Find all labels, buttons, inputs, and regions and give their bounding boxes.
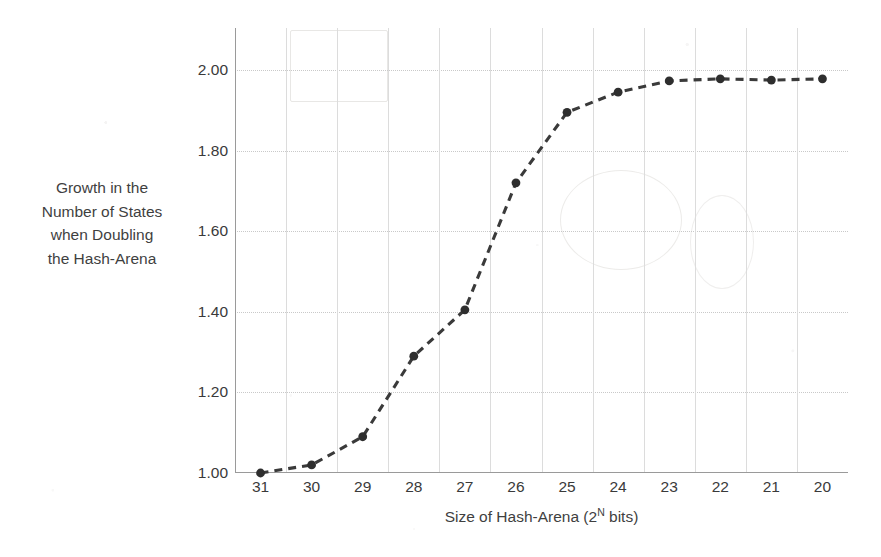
x-axis-tick-label: 21: [751, 478, 791, 496]
data-point-marker: [409, 352, 418, 361]
x-axis-title-superscript: N: [597, 506, 605, 518]
data-point-marker: [614, 88, 623, 97]
x-axis-tick-label: 31: [241, 478, 281, 496]
x-axis-tick-label: 28: [394, 478, 434, 496]
x-axis-tick-labels: 313029282726252423222120: [235, 478, 848, 502]
chart-plot-area: [235, 28, 848, 473]
x-axis-tick-label: 23: [649, 478, 689, 496]
y-axis-tick-label: 1.00: [174, 464, 228, 482]
y-axis-tick-labels: 1.001.201.401.601.802.00: [168, 28, 228, 473]
y-axis-title-line: the Hash-Arena: [14, 247, 190, 271]
y-axis-title: Growth in the Number of States when Doub…: [14, 176, 190, 270]
data-point-marker: [665, 76, 674, 85]
y-axis-title-line: Growth in the: [14, 176, 190, 200]
x-axis-tick-label: 20: [802, 478, 842, 496]
series-line: [261, 79, 823, 473]
data-point-marker: [818, 74, 827, 83]
y-axis-tick-label: 1.40: [174, 303, 228, 321]
data-point-marker: [256, 469, 265, 478]
y-axis-tick-label: 2.00: [174, 61, 228, 79]
data-point-marker: [460, 305, 469, 314]
data-series-plot: [235, 28, 848, 473]
y-axis-tick-label: 1.20: [174, 383, 228, 401]
y-axis-tick-label: 1.60: [174, 222, 228, 240]
data-point-marker: [767, 76, 776, 85]
x-axis-title-suffix: bits): [605, 508, 639, 525]
data-point-marker: [563, 108, 572, 117]
x-axis-title: Size of Hash-Arena (2N bits): [235, 508, 848, 526]
data-point-marker: [307, 461, 316, 470]
y-axis-tick-label: 1.80: [174, 142, 228, 160]
x-axis-tick-label: 24: [598, 478, 638, 496]
x-axis-tick-label: 26: [496, 478, 536, 496]
data-point-marker: [358, 432, 367, 441]
x-axis-tick-label: 25: [547, 478, 587, 496]
y-axis-title-line: when Doubling: [14, 223, 190, 247]
data-point-marker: [512, 178, 521, 187]
data-point-marker: [716, 74, 725, 83]
y-axis-title-line: Number of States: [14, 200, 190, 224]
x-axis-tick-label: 30: [292, 478, 332, 496]
x-axis-tick-label: 27: [445, 478, 485, 496]
x-axis-tick-label: 22: [700, 478, 740, 496]
x-axis-tick-label: 29: [343, 478, 383, 496]
x-axis-title-prefix: Size of Hash-Arena (2: [445, 508, 598, 525]
